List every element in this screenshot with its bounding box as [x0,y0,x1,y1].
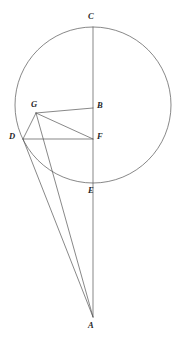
geometry-figure: C B G D F E A [0,0,178,352]
point-label-G: G [31,100,37,109]
segment-G-B [36,108,93,113]
segment-D-G [23,113,36,139]
point-label-E: E [88,186,94,195]
segment-G-A [36,113,93,317]
point-label-F: F [97,132,103,141]
point-label-C: C [88,12,94,21]
figure-canvas [0,0,178,352]
point-label-A: A [88,321,94,330]
point-label-B: B [97,101,103,110]
segment-G-F [36,113,93,139]
segment-D-A [23,139,93,317]
point-label-D: D [9,132,15,141]
